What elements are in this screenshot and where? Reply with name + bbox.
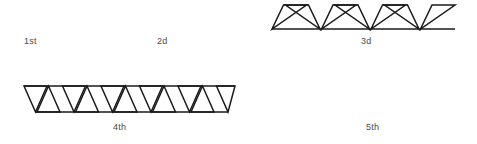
term-figure-4th (20, 82, 242, 122)
term-label-5th: 5th (366, 122, 379, 132)
term-label-1st: 1st (24, 36, 37, 46)
term-label-2d: 2d (157, 36, 167, 46)
figure-canvas: 1st 2d 3d (0, 0, 477, 144)
term-figure-3d (268, 0, 460, 36)
term-label-4th: 4th (113, 122, 126, 132)
term-label-3d: 3d (361, 36, 371, 46)
